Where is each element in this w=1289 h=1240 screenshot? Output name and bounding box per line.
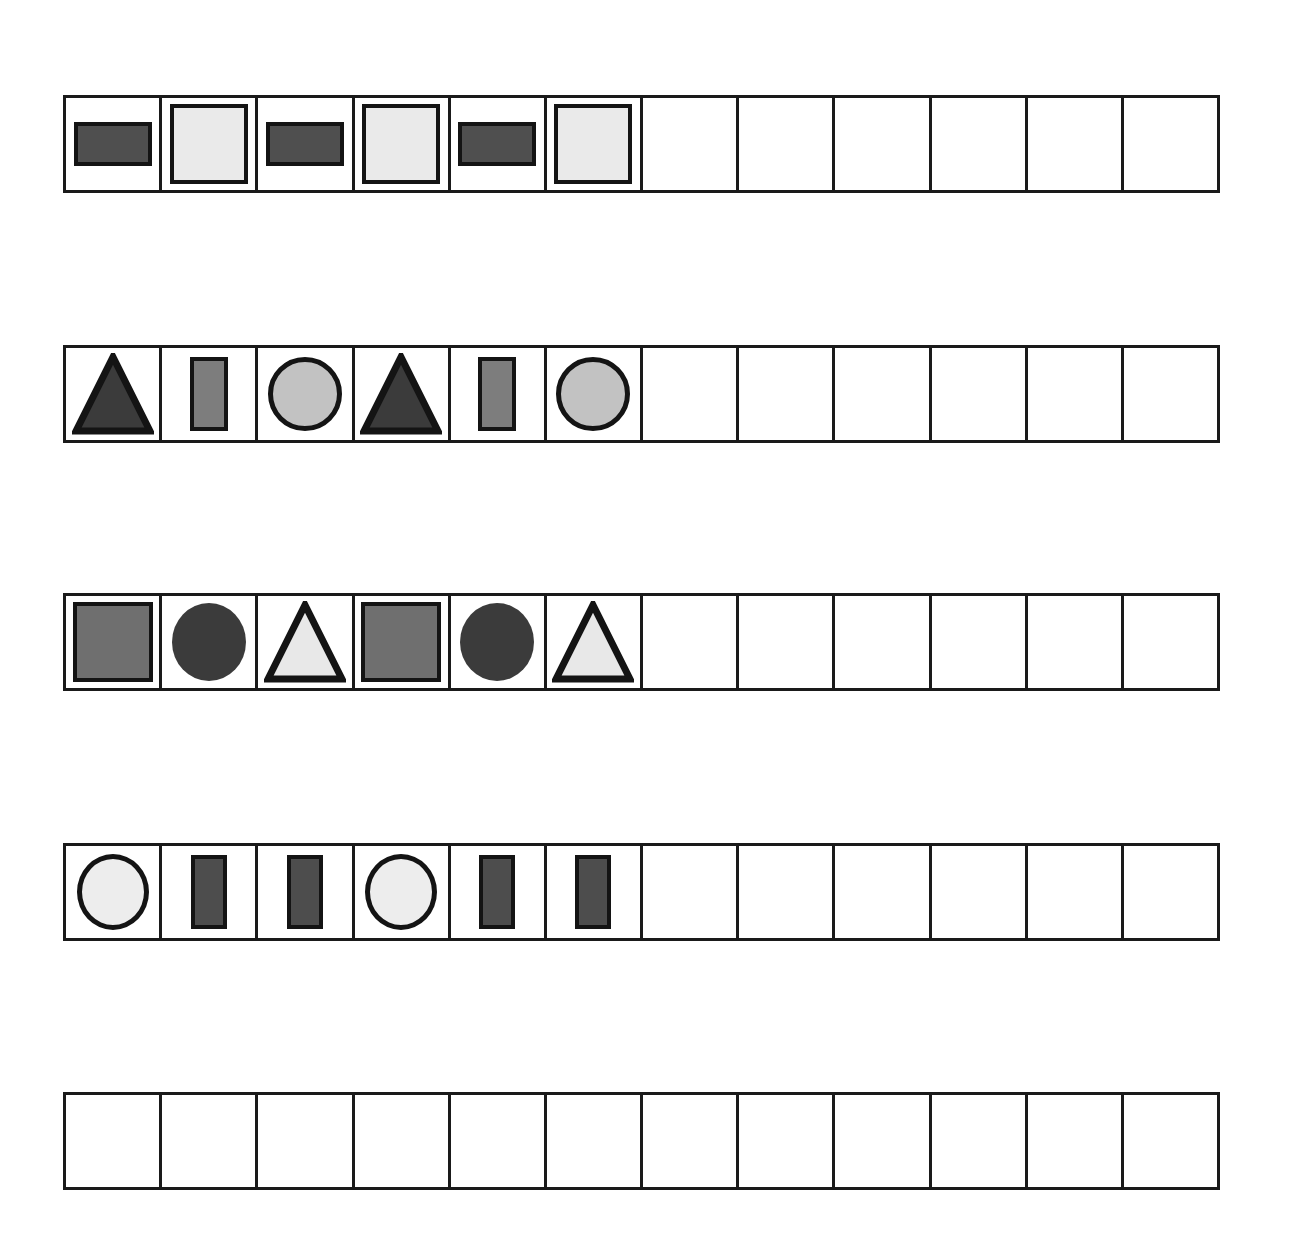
empty-cell[interactable] — [66, 1095, 162, 1187]
pattern-cell[interactable] — [451, 846, 547, 938]
empty-cell[interactable] — [835, 846, 931, 938]
pattern-cell[interactable] — [355, 596, 451, 688]
pattern-cell[interactable] — [66, 348, 162, 440]
empty-cell[interactable] — [739, 596, 835, 688]
empty-cell[interactable] — [835, 1095, 931, 1187]
pattern-cell[interactable] — [258, 596, 354, 688]
pattern-cell[interactable] — [547, 596, 643, 688]
light-gray-square-icon — [170, 104, 248, 184]
light-gray-triangle-icon — [264, 601, 346, 683]
pattern-cell[interactable] — [258, 98, 354, 190]
pattern-cell[interactable] — [451, 596, 547, 688]
empty-cell[interactable] — [643, 1095, 739, 1187]
pattern-cell[interactable] — [547, 348, 643, 440]
empty-cell[interactable] — [1028, 596, 1124, 688]
empty-cell[interactable] — [932, 596, 1028, 688]
pattern-cell[interactable] — [451, 98, 547, 190]
white-circle-icon — [77, 854, 149, 930]
light-gray-triangle-icon — [552, 601, 634, 683]
empty-cell[interactable] — [1028, 1095, 1124, 1187]
pattern-cell[interactable] — [451, 348, 547, 440]
empty-cell[interactable] — [1028, 846, 1124, 938]
empty-cell[interactable] — [739, 846, 835, 938]
pattern-cell[interactable] — [162, 348, 258, 440]
pattern-row-1 — [63, 95, 1220, 193]
pattern-cell[interactable] — [66, 846, 162, 938]
dark-gray-tall-rectangle-icon — [191, 855, 227, 929]
empty-cell[interactable] — [258, 1095, 354, 1187]
pattern-cell[interactable] — [258, 846, 354, 938]
dark-gray-wide-rectangle-icon — [266, 122, 344, 166]
light-gray-circle-icon — [556, 357, 630, 431]
pattern-row-2 — [63, 345, 1220, 443]
dark-gray-wide-rectangle-icon — [458, 122, 536, 166]
dark-gray-circle-icon — [460, 603, 534, 681]
empty-cell[interactable] — [162, 1095, 258, 1187]
empty-cell[interactable] — [355, 1095, 451, 1187]
pattern-row-5 — [63, 1092, 1220, 1190]
empty-cell[interactable] — [739, 348, 835, 440]
pattern-row-3 — [63, 593, 1220, 691]
dark-gray-triangle-icon — [360, 353, 442, 435]
empty-cell[interactable] — [643, 98, 739, 190]
empty-cell[interactable] — [932, 348, 1028, 440]
pattern-cell[interactable] — [162, 98, 258, 190]
empty-cell[interactable] — [1028, 348, 1124, 440]
pattern-cell[interactable] — [66, 98, 162, 190]
empty-cell[interactable] — [643, 846, 739, 938]
pattern-cell[interactable] — [547, 98, 643, 190]
empty-cell[interactable] — [835, 98, 931, 190]
empty-cell[interactable] — [1124, 1095, 1217, 1187]
medium-gray-tall-rectangle-icon — [478, 357, 516, 431]
medium-gray-tall-rectangle-icon — [190, 357, 228, 431]
empty-cell[interactable] — [451, 1095, 547, 1187]
gray-square-icon — [73, 602, 153, 682]
pattern-cell[interactable] — [162, 846, 258, 938]
gray-square-icon — [361, 602, 441, 682]
empty-cell[interactable] — [739, 1095, 835, 1187]
pattern-cell[interactable] — [547, 846, 643, 938]
empty-cell[interactable] — [932, 98, 1028, 190]
dark-gray-wide-rectangle-icon — [74, 122, 152, 166]
pattern-row-4 — [63, 843, 1220, 941]
empty-cell[interactable] — [643, 348, 739, 440]
light-gray-square-icon — [362, 104, 440, 184]
pattern-worksheet — [0, 0, 1289, 1240]
empty-cell[interactable] — [835, 596, 931, 688]
dark-gray-circle-icon — [172, 603, 246, 681]
empty-cell[interactable] — [1028, 98, 1124, 190]
empty-cell[interactable] — [1124, 98, 1217, 190]
dark-gray-tall-rectangle-icon — [287, 855, 323, 929]
pattern-cell[interactable] — [162, 596, 258, 688]
dark-gray-triangle-icon — [72, 353, 154, 435]
pattern-cell[interactable] — [355, 348, 451, 440]
pattern-cell[interactable] — [355, 98, 451, 190]
empty-cell[interactable] — [1124, 348, 1217, 440]
empty-cell[interactable] — [932, 1095, 1028, 1187]
pattern-cell[interactable] — [66, 596, 162, 688]
empty-cell[interactable] — [547, 1095, 643, 1187]
empty-cell[interactable] — [739, 98, 835, 190]
empty-cell[interactable] — [643, 596, 739, 688]
empty-cell[interactable] — [1124, 596, 1217, 688]
empty-cell[interactable] — [932, 846, 1028, 938]
light-gray-square-icon — [554, 104, 632, 184]
empty-cell[interactable] — [835, 348, 931, 440]
white-circle-icon — [365, 854, 437, 930]
pattern-cell[interactable] — [258, 348, 354, 440]
light-gray-circle-icon — [268, 357, 342, 431]
pattern-cell[interactable] — [355, 846, 451, 938]
empty-cell[interactable] — [1124, 846, 1217, 938]
dark-gray-tall-rectangle-icon — [479, 855, 515, 929]
dark-gray-tall-rectangle-icon — [575, 855, 611, 929]
